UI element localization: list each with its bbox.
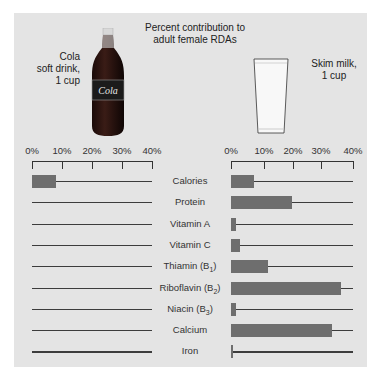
nutrient-label: Calories (150, 175, 230, 186)
baseline (32, 224, 152, 225)
axis-tick (231, 161, 232, 169)
cola-caption-line: Cola (30, 51, 80, 63)
milk-caption-line: 1 cup (305, 70, 363, 82)
baseline (32, 309, 152, 310)
nutrient-label: Protein (150, 196, 230, 207)
axis-tick (152, 161, 153, 169)
cola-bar-row (32, 345, 152, 359)
cola-axis: 0% 10% 20% 30% 40% (32, 145, 152, 167)
tick-label: 0% (25, 145, 39, 156)
tick-label: 10% (52, 145, 71, 156)
milk-bar-row (231, 324, 353, 338)
tick-label: 0% (224, 145, 238, 156)
milk-bar-row (231, 260, 353, 274)
milk-bar (231, 303, 236, 316)
axis-tick (264, 161, 265, 169)
title-line-1: Percent contribution to (130, 22, 260, 34)
milk-bar-row (231, 303, 353, 317)
nutrient-label: Calcium (150, 324, 230, 335)
baseline (32, 245, 152, 246)
nutrient-label: Iron (150, 345, 230, 356)
cola-bar (32, 175, 56, 188)
nutrient-label: Niacin (B3) (150, 303, 230, 316)
axis-tick (32, 161, 33, 169)
milk-bar-row (231, 345, 353, 359)
baseline (231, 245, 353, 246)
nutrient-label: Vitamin A (150, 218, 230, 229)
milk-bar (231, 260, 268, 273)
chart-title: Percent contribution to adult female RDA… (130, 22, 260, 46)
milk-glass-icon (253, 57, 289, 135)
baseline (32, 288, 152, 289)
milk-bar (231, 345, 233, 358)
milk-bar (231, 282, 341, 295)
cola-bar-row (32, 239, 152, 253)
tick-label: 30% (112, 145, 131, 156)
milk-bar (231, 239, 240, 252)
axis-tick (293, 161, 294, 169)
milk-bar-row (231, 239, 353, 253)
tick-label: 10% (254, 145, 273, 156)
tick-label: 20% (82, 145, 101, 156)
nutrient-label: Riboflavin (B2) (150, 282, 230, 295)
baseline (32, 351, 152, 352)
cola-caption: Cola soft drink, 1 cup (30, 51, 80, 87)
cola-bar-row (32, 324, 152, 338)
title-line-2: adult female RDAs (130, 34, 260, 46)
baseline (32, 330, 152, 331)
cola-bar-row (32, 282, 152, 296)
milk-bar-row (231, 196, 353, 210)
cola-bar-row (32, 303, 152, 317)
axis-tick (62, 161, 63, 169)
baseline (32, 202, 152, 203)
nutrient-label: Vitamin C (150, 239, 230, 250)
baseline (32, 266, 152, 267)
milk-bar-row (231, 175, 353, 189)
tick-label: 30% (311, 145, 330, 156)
nutrient-label: Thiamin (B1) (150, 260, 230, 273)
milk-axis: 0% 10% 20% 30% 40% (231, 145, 353, 167)
axis-tick (122, 161, 123, 169)
cola-bar-row (32, 175, 152, 189)
baseline (231, 351, 353, 352)
milk-bar (231, 196, 292, 209)
cola-caption-line: soft drink, (30, 63, 80, 75)
cola-bottle-icon: Cola (88, 28, 128, 138)
milk-bar (231, 218, 236, 231)
axis-tick (321, 161, 322, 169)
cola-caption-line: 1 cup (30, 75, 80, 87)
milk-bar (231, 175, 254, 188)
milk-caption: Skim milk, 1 cup (305, 58, 363, 82)
axis-tick (353, 161, 354, 169)
cola-bar-row (32, 260, 152, 274)
milk-caption-line: Skim milk, (305, 58, 363, 70)
baseline (231, 224, 353, 225)
svg-text:Cola: Cola (98, 85, 117, 96)
axis-tick (92, 161, 93, 169)
milk-bar-row (231, 218, 353, 232)
tick-label: 20% (283, 145, 302, 156)
milk-bar (231, 324, 332, 337)
tick-label: 40% (142, 145, 161, 156)
milk-bar-row (231, 282, 353, 296)
baseline (231, 309, 353, 310)
cola-bar-row (32, 196, 152, 210)
cola-bar-row (32, 218, 152, 232)
tick-label: 40% (343, 145, 362, 156)
